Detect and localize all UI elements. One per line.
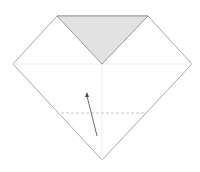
origami-diagram [0,0,200,172]
